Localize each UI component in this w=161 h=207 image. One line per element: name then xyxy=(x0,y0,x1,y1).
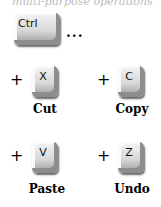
ctrl-key: Ctrl xyxy=(14,13,60,45)
x-key: X xyxy=(32,66,58,97)
c-key: C xyxy=(118,66,144,97)
undo-label: Undo xyxy=(102,182,161,196)
c-key-label: C xyxy=(118,70,140,83)
x-key-label: X xyxy=(32,70,54,83)
plus-sign: + xyxy=(97,70,110,89)
z-key-label: Z xyxy=(118,146,140,159)
plus-sign: + xyxy=(97,146,110,165)
cut-label: Cut xyxy=(15,102,75,116)
z-key: Z xyxy=(118,142,144,173)
paste-label: Paste xyxy=(17,182,77,196)
ctrl-key-label: Ctrl xyxy=(18,17,38,30)
plus-sign: + xyxy=(10,146,23,165)
plus-sign: + xyxy=(10,70,23,89)
v-key-label: V xyxy=(32,146,54,159)
copy-label: Copy xyxy=(102,102,161,116)
ellipsis: ... xyxy=(66,24,84,40)
cropped-caption: multi-purpose operations xyxy=(12,0,153,8)
v-key: V xyxy=(32,142,58,173)
